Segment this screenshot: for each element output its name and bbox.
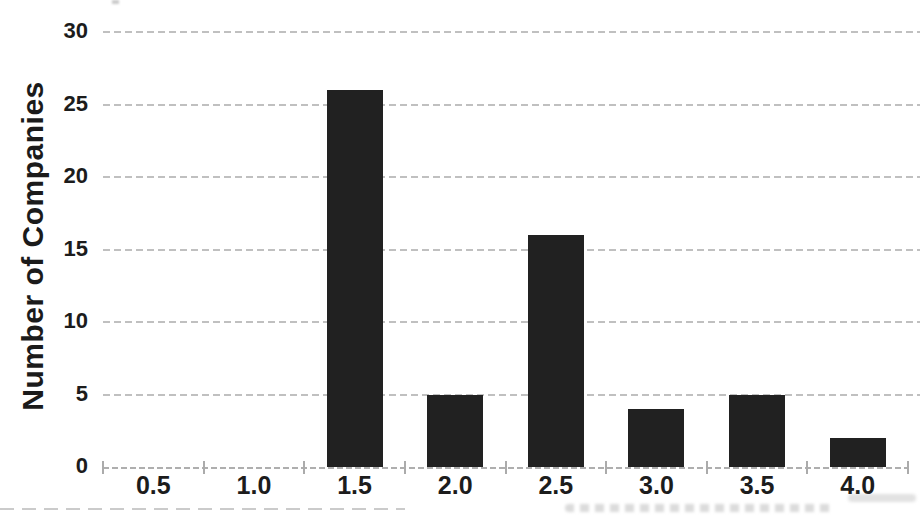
x-tick-label-2.5: 2.5 [516, 471, 596, 499]
y-tick-label-15: 15 [36, 236, 88, 262]
x-axis-tick-2 [303, 461, 305, 474]
y-tick-label-0: 0 [36, 453, 88, 479]
x-axis-tick-0 [102, 461, 104, 474]
scan-artifact-top [112, 0, 119, 4]
gridline-5 [103, 394, 920, 396]
y-tick-label-30: 30 [36, 18, 88, 44]
gridline-15 [103, 249, 920, 251]
x-axis-tick-3 [404, 461, 406, 474]
x-axis-tick-8 [907, 461, 909, 474]
x-axis-tick-5 [605, 461, 607, 474]
bar-3.5 [729, 395, 785, 468]
y-tick-label-20: 20 [36, 163, 88, 189]
scan-artifact-bottom-left [0, 508, 405, 510]
y-tick-label-10: 10 [36, 308, 88, 334]
x-tick-label-1.5: 1.5 [315, 471, 395, 499]
x-tick-label-2.0: 2.0 [415, 471, 495, 499]
x-tick-label-3.5: 3.5 [717, 471, 797, 499]
x-axis-tick-1 [203, 461, 205, 474]
x-tick-label-3.0: 3.0 [616, 471, 696, 499]
scan-artifact-bottom-right [565, 504, 835, 512]
bar-2.5 [528, 235, 584, 467]
bar-1.5 [327, 90, 383, 467]
x-axis-tick-6 [706, 461, 708, 474]
gridline-20 [103, 176, 920, 178]
y-tick-label-5: 5 [36, 381, 88, 407]
gridline-25 [103, 104, 920, 106]
bar-chart-figure: Number of Companies 051015202530 0.51.01… [0, 0, 921, 518]
x-axis-tick-4 [505, 461, 507, 474]
bar-3.0 [628, 409, 684, 467]
x-tick-label-0.5: 0.5 [113, 471, 193, 499]
bar-2.0 [427, 395, 483, 468]
y-tick-label-25: 25 [36, 91, 88, 117]
x-tick-label-1.0: 1.0 [214, 471, 294, 499]
bar-4.0 [830, 438, 886, 467]
x-axis-tick-7 [806, 461, 808, 474]
x-tick-label-4.0: 4.0 [818, 471, 898, 499]
gridline-30 [103, 31, 920, 33]
gridline-10 [103, 321, 920, 323]
